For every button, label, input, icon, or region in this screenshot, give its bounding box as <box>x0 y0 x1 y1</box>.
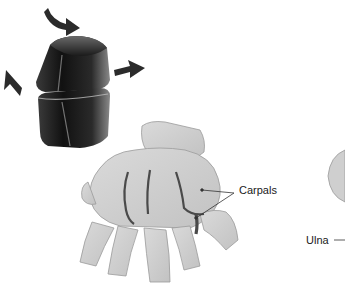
anatomy-figure <box>0 0 345 284</box>
ulna-head <box>328 150 345 202</box>
metacarpal-3 <box>144 228 170 282</box>
lower-block <box>38 88 110 148</box>
metacarpal-2 <box>108 226 138 276</box>
arrow-left-up-icon <box>4 70 22 96</box>
wrist-bones-illustration <box>80 122 238 283</box>
ulna-label: Ulna <box>306 235 329 246</box>
trapezium-thumb <box>200 210 238 250</box>
metacarpal-1 <box>80 222 114 266</box>
carpals-label: Carpals <box>239 185 277 196</box>
arrow-right-icon <box>114 60 145 78</box>
gliding-joint-model <box>36 36 110 148</box>
rotation-arrow-icon <box>44 8 80 36</box>
